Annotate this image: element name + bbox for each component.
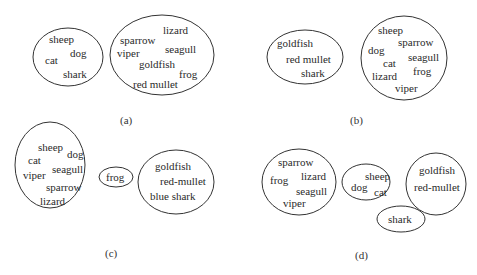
cluster-item: seagull (408, 52, 439, 63)
cluster-item: goldfish (419, 165, 455, 176)
cluster-item: red-mullet (160, 176, 206, 187)
cluster-item: dog (70, 48, 87, 59)
cluster-item: viper (117, 48, 140, 59)
panel-caption: (d) (355, 250, 368, 261)
cluster-item: cat (374, 187, 387, 198)
cluster-item: goldfish (277, 38, 313, 49)
cluster-item: frog (270, 175, 288, 186)
panel-caption: (c) (105, 248, 117, 259)
cluster-item: blue shark (150, 191, 196, 202)
cluster-item: sparrow (398, 37, 433, 48)
cluster-item: seagull (296, 186, 327, 197)
cluster-item: dog (351, 182, 368, 193)
panel-caption: (a) (120, 115, 132, 126)
cluster-item: dog (368, 45, 385, 56)
cluster-item: seagull (52, 164, 83, 175)
panel-caption: (b) (350, 115, 363, 126)
cluster-item: shark (301, 68, 325, 79)
cluster-item: sheep (378, 25, 403, 36)
cluster-item: dog (67, 149, 84, 160)
cluster-item: frog (413, 66, 431, 77)
cluster-item: cat (45, 55, 58, 66)
cluster-item: sheep (38, 142, 63, 153)
cluster-item: lizard (372, 71, 397, 82)
cluster-item: sparrow (278, 157, 313, 168)
cluster-item: viper (23, 170, 46, 181)
cluster-item: seagull (165, 44, 196, 55)
cluster-item: sparrow (120, 35, 155, 46)
cluster-item: red-mullet (414, 182, 460, 193)
cluster-item: cat (383, 58, 396, 69)
cluster-item: viper (395, 83, 418, 94)
cluster-item: sparrow (46, 182, 81, 193)
cluster-item: frog (179, 69, 197, 80)
cluster-item: red mullet (133, 79, 178, 90)
cluster-item: sheep (49, 34, 74, 45)
cluster-item: frog (106, 172, 124, 183)
cluster-item: shark (63, 69, 87, 80)
cluster-item: lizard (40, 196, 65, 207)
cluster-item: shark (388, 214, 412, 225)
cluster-item: lizard (163, 25, 188, 36)
cluster-item: viper (283, 198, 306, 209)
cluster-item: red mullet (286, 54, 331, 65)
cluster-item: goldfish (139, 59, 175, 70)
cluster-item: lizard (301, 171, 326, 182)
cluster-item: sheep (365, 171, 390, 182)
cluster-item: cat (28, 155, 41, 166)
cluster-item: goldfish (155, 161, 191, 172)
